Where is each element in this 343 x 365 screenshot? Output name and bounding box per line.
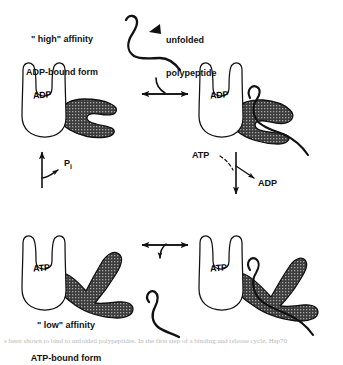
- state-bottom-right-atp-form-releasing: [199, 236, 318, 335]
- nucleotide-label-bottom-left: ATP: [33, 262, 51, 273]
- substrate-binding-domain-open: [234, 258, 318, 321]
- right-vertical-arrow-nucleotide-exchange: [220, 152, 254, 194]
- nucleotide-label-bottom-right: ATP: [210, 262, 228, 273]
- substrate-exit-hook: [160, 244, 166, 258]
- unfolded-polypeptide-label-line1: unfolded: [166, 35, 256, 46]
- caption-strip: s been shown to bind to unfolded polypep…: [0, 336, 343, 350]
- left-vertical-arrow-pi-release: [42, 152, 58, 188]
- bottom-equilibrium-arrow: [142, 244, 188, 258]
- atp-inflow-label: ATP: [192, 150, 209, 161]
- adp-outflow-branch: [236, 166, 254, 178]
- adp-outflow-label: ADP: [258, 178, 277, 189]
- top-left-form-label-line1: " high" affinity: [6, 34, 118, 45]
- bottom-left-form-label-line2: ATP-bound form: [6, 353, 126, 364]
- unfolded-polypeptide-label-line2: polypeptide: [166, 68, 256, 79]
- atp-inflow-branch: [220, 156, 233, 170]
- caption-line: s been shown to bind to unfolded polypep…: [4, 337, 340, 345]
- unfolded-polypeptide-label: unfolded polypeptide: [166, 13, 256, 101]
- phosphate-label: Pi: [64, 158, 72, 172]
- bottom-left-form-label-line1: " low" affinity: [6, 320, 126, 331]
- nucleotide-label-top-left: ADP: [33, 89, 52, 101]
- pi-release-branch: [42, 170, 58, 178]
- released-unfolded-polypeptide-squiggle: [147, 291, 179, 337]
- nucleotide-binding-domain-outline: [199, 236, 243, 310]
- unfolded-polypeptide-pointer-arrowhead: [149, 24, 161, 34]
- phosphate-label-subscript: i: [70, 163, 72, 170]
- substrate-entry-hook: [156, 78, 165, 93]
- top-left-form-label: " high" affinity ADP-bound form: [6, 12, 118, 100]
- top-left-form-label-line2: ADP-bound form: [6, 67, 118, 78]
- bottom-left-form-label: " low" affinity ATP-bound form: [6, 298, 126, 365]
- nucleotide-label-top-right: ADP: [210, 89, 229, 101]
